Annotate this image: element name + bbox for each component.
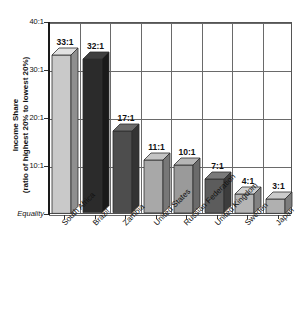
bar-value-label: 17:1 — [117, 113, 134, 123]
y-axis-tick-label: 20:1 — [0, 114, 44, 122]
y-axis-tick-label: 40:1 — [0, 18, 44, 26]
gridline-horizontal — [49, 23, 291, 24]
bar: 17:1 — [113, 124, 139, 213]
bar-3d-shape — [113, 124, 139, 213]
bar-value-label: 7:1 — [211, 161, 223, 171]
bar-3d-shape — [52, 48, 78, 213]
y-axis-title-line1: Income Share — [11, 57, 21, 193]
gridline-vertical — [171, 23, 172, 213]
bar: 11:1 — [144, 153, 170, 213]
bar-3d-shape — [144, 153, 170, 213]
gridline-vertical — [110, 23, 111, 213]
bar-value-label: 10:1 — [178, 147, 195, 157]
gridline-vertical — [232, 23, 233, 213]
income-share-bar-chart: Income Share (ratio of highest 20% to lo… — [0, 0, 304, 317]
bar-3d-shape — [83, 52, 109, 213]
gridline-vertical — [141, 23, 142, 213]
y-axis-title-line2: (ratio of highest 20% to lowest 20%) — [21, 57, 31, 193]
gridline-vertical — [202, 23, 203, 213]
bar-value-label: 11:1 — [148, 142, 165, 152]
bar: 32:1 — [83, 52, 109, 213]
y-axis-tick-label: 30:1 — [0, 66, 44, 74]
y-axis-tick-label: 10:1 — [0, 162, 44, 170]
y-axis-spine — [48, 22, 50, 215]
gridline-vertical — [263, 23, 264, 213]
bar: 33:1 — [52, 48, 78, 213]
y-axis-tick-label: Equality — [0, 210, 44, 218]
bar-value-label: 33:1 — [56, 37, 73, 47]
gridline-vertical — [80, 23, 81, 213]
bar-value-label: 32:1 — [87, 41, 104, 51]
bar-value-label: 3:1 — [272, 181, 284, 191]
y-axis-title: Income Share (ratio of highest 20% to lo… — [8, 30, 34, 220]
